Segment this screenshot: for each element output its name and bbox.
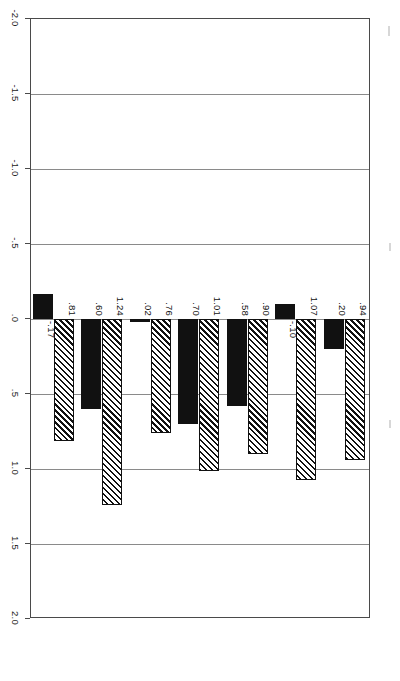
bar-value-label: 1.01 xyxy=(212,294,223,316)
bar-series-solid xyxy=(178,319,198,424)
bar-value-label: .60 xyxy=(94,294,105,316)
bar-value-label: .20 xyxy=(337,294,348,316)
axis-tick xyxy=(25,468,30,469)
gridline--.5 xyxy=(31,244,369,245)
bar-value-label: .58 xyxy=(240,294,251,316)
bar-series-solid xyxy=(275,304,295,319)
axis-tick-label: 1.5 xyxy=(10,536,21,550)
bar-series-hatched xyxy=(248,319,268,454)
gridline-1.5 xyxy=(31,544,369,545)
axis-tick xyxy=(25,18,30,19)
bar-chart-figure: 2.01.51.0.5.0-.5-1.0-1.5-2.0.94.20OVERAL… xyxy=(0,0,400,681)
bar-value-label: .76 xyxy=(164,294,175,316)
rotated-figure-wrapper: 2.01.51.0.5.0-.5-1.0-1.5-2.0.94.20OVERAL… xyxy=(0,0,400,681)
axis-tick-label: -1.0 xyxy=(10,159,21,176)
bar-value-label: -.17 xyxy=(46,321,57,338)
bar-value-label: 1.24 xyxy=(115,294,126,316)
bar-value-label: 1.07 xyxy=(309,294,320,316)
axis-tick-label: 2.0 xyxy=(10,611,21,625)
axis-tick-label: -1.5 xyxy=(10,84,21,101)
bar-series-solid xyxy=(130,319,150,322)
bar-series-solid xyxy=(227,319,247,406)
axis-tick xyxy=(25,318,30,319)
bar-value-label: .94 xyxy=(358,294,369,316)
axis-tick-label: -.5 xyxy=(10,237,21,249)
axis-tick xyxy=(25,93,30,94)
bar-series-solid xyxy=(324,319,344,349)
axis-tick-label: .5 xyxy=(10,389,21,397)
gridline--1.0 xyxy=(31,169,369,170)
bar-series-solid xyxy=(33,294,53,320)
axis-tick-label: .0 xyxy=(10,314,21,322)
bar-series-hatched xyxy=(151,319,171,433)
axis-tick xyxy=(25,393,30,394)
bar-value-label: .70 xyxy=(191,294,202,316)
scan-edge-artifact xyxy=(388,26,390,36)
axis-tick xyxy=(25,168,30,169)
bar-series-hatched xyxy=(296,319,316,480)
bar-series-solid xyxy=(81,319,101,409)
bar-series-hatched xyxy=(102,319,122,505)
bar-value-label: .81 xyxy=(67,294,78,316)
bar-value-label: .90 xyxy=(261,294,272,316)
bar-value-label: .02 xyxy=(143,294,154,316)
scan-edge-artifact xyxy=(389,420,391,428)
bar-series-hatched xyxy=(345,319,365,460)
gridline--1.5 xyxy=(31,94,369,95)
plot-area xyxy=(30,18,370,618)
axis-tick xyxy=(25,243,30,244)
bar-value-label: -.10 xyxy=(288,321,299,338)
axis-tick xyxy=(25,618,30,619)
scan-edge-artifact xyxy=(389,243,391,251)
axis-tick xyxy=(25,543,30,544)
bar-series-hatched xyxy=(54,319,74,441)
axis-tick-label: 1.0 xyxy=(10,461,21,475)
axis-tick-label: -2.0 xyxy=(10,9,21,26)
bar-series-hatched xyxy=(199,319,219,471)
